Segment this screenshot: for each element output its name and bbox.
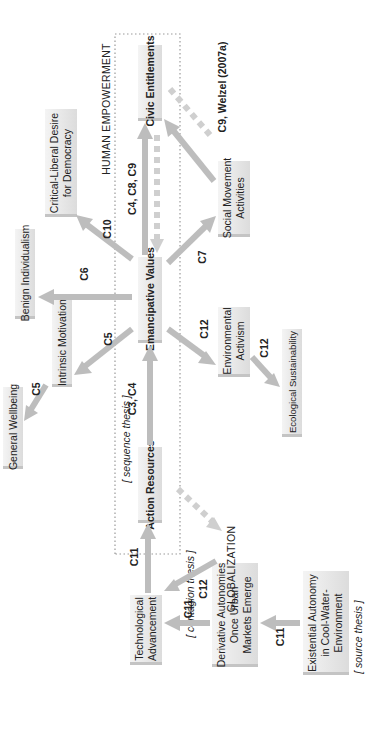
- edge-label-c11-exist: C11: [274, 628, 286, 647]
- svg-text:Intrinsic Motivations: Intrinsic Motivations: [56, 294, 68, 386]
- node-civic-entitlements: Civic Entitlements: [138, 35, 162, 126]
- arrow-technology-to-resources: [140, 523, 156, 593]
- dotted-arrow-resources-to-globalization: [178, 489, 222, 531]
- svg-text:for Democracy: for Democracy: [61, 128, 73, 197]
- arrow-values-to-social-movement: [168, 216, 216, 263]
- edge-label-c12-glob: C12: [197, 579, 209, 598]
- node-critical-liberal-desire: Critical-Liberal Desire for Democracy: [45, 109, 77, 217]
- svg-text:Action Resources: Action Resources: [144, 440, 156, 529]
- svg-text:Environment: Environment: [332, 593, 344, 652]
- svg-text:Environmental: Environmental: [221, 307, 233, 374]
- edge-label-c10: C10: [101, 219, 113, 238]
- svg-text:Critical-Liberal Desire: Critical-Liberal Desire: [48, 113, 60, 214]
- svg-text:Technological: Technological: [133, 597, 145, 661]
- human-empowerment-diagram: HUMAN EMPOWERMENT Civic Entitlements Ema…: [0, 0, 378, 729]
- svg-text:Civic Entitlements: Civic Entitlements: [144, 35, 156, 126]
- svg-text:Benign Individualism: Benign Individualism: [19, 225, 31, 322]
- source-thesis-annotation: [ source thesis ]: [352, 599, 364, 675]
- svg-text:Advancement: Advancement: [146, 597, 158, 661]
- globalization-label: GLOBALIZATION: [225, 526, 237, 613]
- node-benign-individualism: Benign Individualism: [15, 225, 35, 322]
- node-social-movement-activities: Social Movement Activities: [218, 158, 250, 239]
- node-action-resources: Action Resources: [138, 440, 162, 529]
- edge-label-c6: C6: [78, 267, 90, 281]
- svg-text:General Wellbeing: General Wellbeing: [7, 384, 19, 470]
- dotted-arrow-entitlements-to-values: [150, 135, 164, 253]
- svg-text:Social Movement: Social Movement: [221, 158, 233, 239]
- svg-text:Emancipative Values: Emancipative Values: [144, 247, 156, 351]
- edge-label-c4-c8-c9: C4, C8, C9: [126, 163, 138, 215]
- node-ecological-sustainability: Ecological Sustainability: [282, 329, 302, 437]
- svg-text:Existential Autonomy: Existential Autonomy: [306, 574, 318, 672]
- svg-text:in Cool-Water-: in Cool-Water-: [319, 589, 331, 657]
- svg-text:Ecological Sustainability: Ecological Sustainability: [287, 331, 298, 433]
- edge-label-c7: C7: [196, 250, 208, 264]
- node-existential-autonomy: Existential Autonomy in Cool-Water- Envi…: [303, 571, 349, 675]
- node-intrinsic-motivations: Intrinsic Motivations: [52, 294, 72, 387]
- svg-text:Activities: Activities: [234, 177, 246, 218]
- arrow-social-movement-to-entitlements: [164, 119, 214, 181]
- edge-label-c5-values: C5: [102, 332, 114, 346]
- frame-label: HUMAN EMPOWERMENT: [100, 43, 112, 175]
- edge-label-c5-wellbeing: C5: [30, 382, 42, 396]
- node-emancipative-values: Emancipative Values: [138, 247, 162, 351]
- svg-text:Activism: Activism: [234, 321, 246, 360]
- arrow-values-to-benign: [38, 289, 132, 305]
- edge-label-c12-eco: C12: [258, 338, 270, 357]
- edge-label-c9-welzel: C9, Welzel (2007a): [216, 42, 228, 133]
- arrow-environmental-to-ecological: [252, 357, 280, 387]
- node-general-wellbeing: General Wellbeing: [3, 384, 23, 470]
- edge-label-c3-c4: C3, C4: [126, 383, 138, 416]
- diagram-stage: HUMAN EMPOWERMENT Civic Entitlements Ema…: [0, 0, 378, 729]
- edge-label-c11-tech: C11: [128, 548, 140, 567]
- edge-label-c11-deriv: C11: [182, 600, 194, 619]
- edge-label-c12-env: C12: [198, 319, 210, 338]
- arrow-resources-to-values: [142, 345, 158, 445]
- node-environmental-activism: Environmental Activism: [218, 307, 250, 377]
- arrow-values-to-entitlements: [137, 123, 153, 255]
- svg-text:Markets Emerge: Markets Emerge: [241, 576, 253, 653]
- node-technological-advancement: Technological Advancement: [130, 595, 162, 665]
